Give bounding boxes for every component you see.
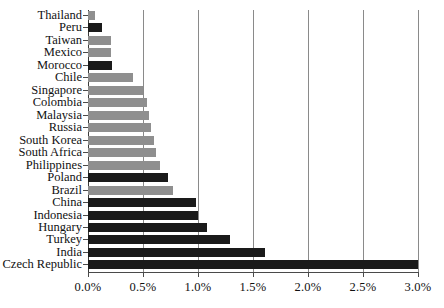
bar bbox=[88, 186, 173, 195]
bar bbox=[88, 73, 133, 82]
bar bbox=[88, 235, 230, 244]
bar-chart: ThailandPeruTaiwanMexicoMoroccoChileSing… bbox=[0, 0, 444, 308]
bar bbox=[88, 211, 198, 220]
bar bbox=[88, 248, 265, 257]
x-tick-label: 0.5% bbox=[130, 280, 157, 294]
bar bbox=[88, 111, 149, 120]
bar bbox=[88, 136, 154, 145]
bar bbox=[88, 198, 196, 207]
bar-row: Chile bbox=[88, 72, 418, 85]
bar-row: China bbox=[88, 197, 418, 210]
bar-row: Morocco bbox=[88, 60, 418, 73]
bar-row: Russia bbox=[88, 122, 418, 135]
x-tick-label: 1.5% bbox=[240, 280, 267, 294]
x-tick-mark bbox=[143, 272, 144, 277]
bar bbox=[88, 61, 112, 70]
bar bbox=[88, 123, 151, 132]
bar bbox=[88, 48, 111, 57]
x-tick-label: 3.0% bbox=[405, 280, 432, 294]
bar bbox=[88, 260, 418, 269]
bar-row: Turkey bbox=[88, 234, 418, 247]
bar-row: Poland bbox=[88, 172, 418, 185]
bar bbox=[88, 161, 160, 170]
bar-row: Philippines bbox=[88, 160, 418, 173]
x-tick-label: 1.0% bbox=[185, 280, 212, 294]
bar-row: India bbox=[88, 247, 418, 260]
bar-row: Hungary bbox=[88, 222, 418, 235]
bar-row: Taiwan bbox=[88, 35, 418, 48]
category-label: Czech Republic bbox=[3, 257, 83, 271]
x-tick-mark bbox=[88, 272, 89, 277]
bar-row: South Korea bbox=[88, 135, 418, 148]
x-tick-mark bbox=[198, 272, 199, 277]
x-tick-label: 2.0% bbox=[295, 280, 322, 294]
bar bbox=[88, 36, 111, 45]
bar bbox=[88, 98, 147, 107]
bar bbox=[88, 148, 156, 157]
x-tick-mark bbox=[308, 272, 309, 277]
bar bbox=[88, 223, 207, 232]
bar-row: Peru bbox=[88, 22, 418, 35]
bar bbox=[88, 23, 102, 32]
bar-row: Czech Republic bbox=[88, 259, 418, 272]
bar-row: Colombia bbox=[88, 97, 418, 110]
bar-row: Brazil bbox=[88, 185, 418, 198]
bar bbox=[88, 11, 95, 20]
x-tick-label: 2.5% bbox=[350, 280, 377, 294]
plot-area: ThailandPeruTaiwanMexicoMoroccoChileSing… bbox=[88, 10, 418, 272]
gridline-3.0pct bbox=[418, 10, 419, 272]
bar bbox=[88, 173, 168, 182]
bar-row: Malaysia bbox=[88, 110, 418, 123]
bar-row: Mexico bbox=[88, 47, 418, 60]
x-tick-label: 0.0% bbox=[75, 280, 102, 294]
bar-row: Thailand bbox=[88, 10, 418, 23]
x-tick-mark bbox=[363, 272, 364, 277]
bar-row: South Africa bbox=[88, 147, 418, 160]
bar-row: Indonesia bbox=[88, 210, 418, 223]
bar-row: Singapore bbox=[88, 85, 418, 98]
x-tick-mark bbox=[253, 272, 254, 277]
bar bbox=[88, 86, 143, 95]
x-tick-mark bbox=[418, 272, 419, 277]
